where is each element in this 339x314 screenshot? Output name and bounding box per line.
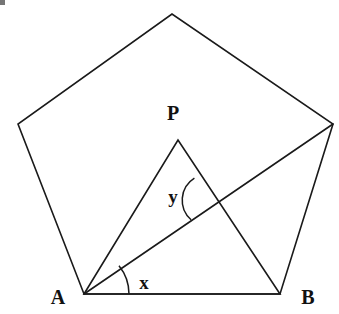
apex-label-p: P — [167, 103, 179, 123]
angle-label-y: y — [168, 187, 178, 206]
angle-label-x: x — [139, 273, 149, 292]
figure-canvas — [0, 0, 339, 314]
pentagon-outline — [18, 14, 333, 294]
inner-triangle-APB — [84, 140, 280, 294]
angle-arc-y — [182, 178, 194, 220]
scan-artifact-corner — [0, 0, 5, 5]
vertex-label-b: B — [301, 287, 314, 307]
geometry-figure: A B P x y — [0, 0, 339, 314]
vertex-label-a: A — [51, 287, 65, 307]
